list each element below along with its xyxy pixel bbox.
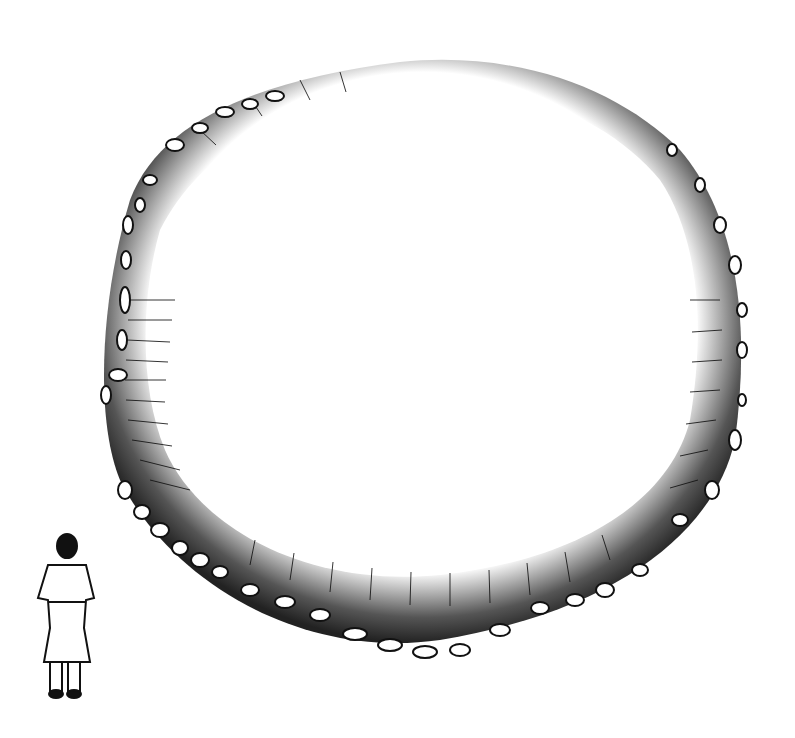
mound-drawing xyxy=(0,0,795,738)
illustration-canvas xyxy=(0,0,795,738)
human-figure xyxy=(38,534,94,698)
